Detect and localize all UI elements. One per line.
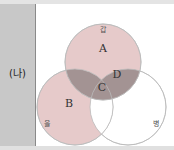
circle-byeong-label: 병	[153, 119, 159, 128]
region-b-label: B	[65, 97, 73, 110]
region-d-label: D	[113, 68, 122, 81]
venn-diagram: A B C D 갑 을 병	[0, 0, 174, 150]
circle-gap-label: 갑	[100, 26, 107, 34]
circle-eul-label: 을	[44, 120, 51, 128]
region-a-label: A	[98, 42, 108, 55]
region-c-label: C	[98, 81, 106, 94]
